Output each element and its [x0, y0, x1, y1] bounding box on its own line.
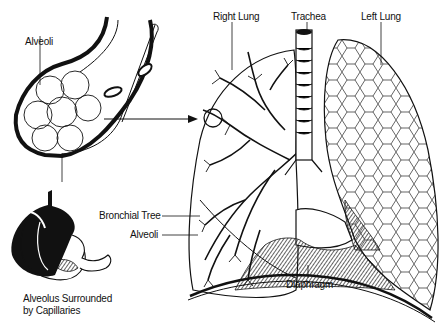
label-right-lung: Right Lung [213, 11, 259, 22]
alveolus-capillaries-illustration [11, 190, 110, 280]
label-trachea: Trachea [291, 11, 326, 22]
label-alveolus-caption-line1: Alveolus Surrounded [23, 293, 112, 304]
label-alveoli-bottom: Alveoli [130, 229, 158, 240]
label-left-lung: Left Lung [361, 11, 401, 22]
label-alveoli-top: Alveoli [25, 36, 53, 47]
label-alveolus-caption-line2: by Capillaries [23, 305, 80, 316]
label-diaphragm: Diaphragm [286, 279, 333, 290]
lungs-diagram [0, 0, 442, 327]
label-bronchial-tree: Bronchial Tree [99, 210, 161, 221]
